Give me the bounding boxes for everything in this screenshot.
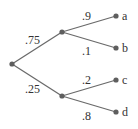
node-b: [113, 45, 118, 50]
node-c: [113, 77, 118, 82]
prob-label-root-n1: .75: [25, 33, 40, 47]
prob-label-n1-b: .1: [82, 44, 91, 58]
node-a: [113, 13, 118, 18]
prob-label-n2-d: .8: [82, 109, 91, 123]
leaf-label-b: b: [122, 41, 128, 55]
node-n2: [59, 93, 64, 98]
leaf-label-a: a: [122, 9, 128, 23]
leaf-label-d: d: [122, 105, 128, 119]
node-root: [9, 61, 14, 66]
node-n1: [59, 29, 64, 34]
prob-label-n2-c: .2: [82, 73, 91, 87]
node-d: [113, 109, 118, 114]
prob-label-root-n2: .25: [25, 82, 40, 96]
leaf-label-c: c: [122, 73, 127, 87]
probability-tree: .75 .25 .9 .1 .2 .8 a b c d: [0, 0, 138, 129]
prob-label-n1-a: .9: [82, 9, 91, 23]
